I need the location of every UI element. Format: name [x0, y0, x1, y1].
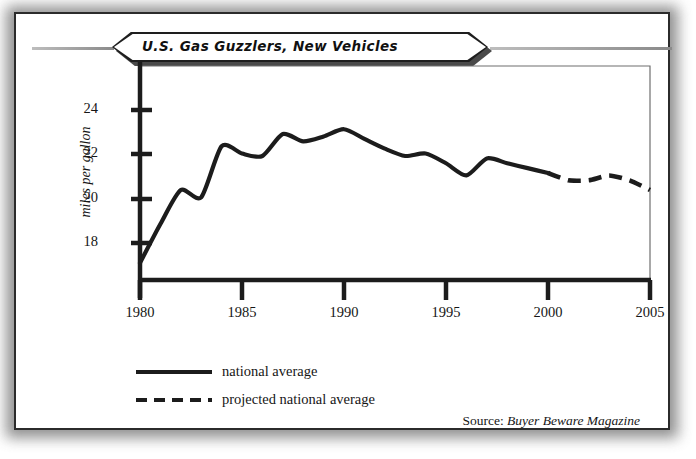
chart-page: U.S. Gas Guzzlers, New Vehicles	[0, 0, 696, 459]
page-title: U.S. Gas Guzzlers, New Vehicles	[142, 32, 398, 62]
x-tick-label-1985: 1985	[216, 304, 268, 321]
series-national-average	[140, 129, 548, 263]
x-tick-label-1990: 1990	[318, 304, 370, 321]
source-note: Source: Buyer Beware Magazine	[462, 413, 640, 429]
banner-rule-left	[32, 47, 114, 50]
x-tick-marks	[140, 280, 650, 300]
x-tick-label-1995: 1995	[420, 304, 472, 321]
legend-label-projected-national-average: projected national average	[222, 389, 375, 411]
y-tick-label-22: 22	[72, 144, 98, 161]
y-tick-label-20: 20	[72, 189, 98, 206]
x-tick-label-2005: 2005	[624, 304, 676, 321]
y-tick-label-24: 24	[72, 100, 98, 117]
x-tick-label-2000: 2000	[522, 304, 574, 321]
chart-card: U.S. Gas Guzzlers, New Vehicles	[14, 12, 670, 430]
legend-swatch-solid	[136, 370, 212, 374]
plot-frame	[140, 66, 650, 280]
series-projected-national-average	[548, 173, 650, 190]
legend-label-national-average: national average	[222, 361, 317, 383]
source-publication: Buyer Beware Magazine	[507, 413, 640, 428]
title-banner: U.S. Gas Guzzlers, New Vehicles	[112, 32, 492, 66]
chart-plot	[16, 14, 672, 432]
banner-rule-right	[490, 47, 672, 50]
y-tick-marks	[131, 110, 152, 243]
y-tick-label-18: 18	[72, 233, 98, 250]
x-tick-label-1980: 1980	[114, 304, 166, 321]
source-prefix: Source:	[462, 413, 503, 428]
legend-swatch-dashed	[136, 398, 212, 402]
